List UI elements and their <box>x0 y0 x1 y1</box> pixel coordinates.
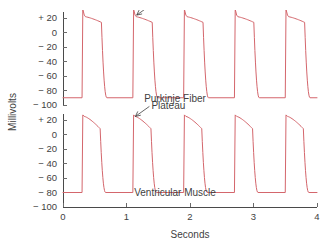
action-potential-chart: + 200− 20− 40− 60− 80− 100Purkinje Fiber… <box>0 0 330 246</box>
y-tick-label-ventricular-muscle-1: 0 <box>52 129 57 140</box>
panel-top-mask-purkinje-fiber <box>64 0 318 10</box>
annotation-label-ventricular-muscle: Plateau <box>151 100 185 111</box>
y-tick-label-ventricular-muscle-4: − 60 <box>38 172 57 183</box>
y-tick-label-ventricular-muscle-5: − 80 <box>38 187 57 198</box>
y-tick-label-ventricular-muscle-2: − 20 <box>38 143 57 154</box>
y-tick-label-purkinje-fiber-0: + 20 <box>38 12 57 23</box>
x-tick-label-4: 4 <box>314 211 319 222</box>
y-axis-title: Millivolts <box>7 93 18 131</box>
y-tick-label-purkinje-fiber-4: − 60 <box>38 70 57 81</box>
y-tick-label-purkinje-fiber-2: − 20 <box>38 41 57 52</box>
y-tick-label-ventricular-muscle-0: + 20 <box>38 114 57 125</box>
x-tick-label-1: 1 <box>124 211 129 222</box>
series-label-ventricular-muscle: Ventricular Muscle <box>134 187 216 198</box>
y-tick-label-purkinje-fiber-1: 0 <box>52 27 57 38</box>
x-tick-label-2: 2 <box>187 211 192 222</box>
x-axis-title: Seconds <box>171 229 210 240</box>
y-tick-label-purkinje-fiber-6: − 100 <box>33 99 57 110</box>
x-tick-label-3: 3 <box>251 211 256 222</box>
y-tick-label-purkinje-fiber-3: − 40 <box>38 56 57 67</box>
y-tick-label-purkinje-fiber-5: − 80 <box>38 85 57 96</box>
x-tick-label-0: 0 <box>60 211 65 222</box>
y-tick-label-ventricular-muscle-6: − 100 <box>33 201 57 212</box>
y-tick-label-ventricular-muscle-3: − 40 <box>38 158 57 169</box>
